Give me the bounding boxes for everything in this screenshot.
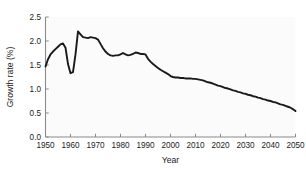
x-tick-label: 2020 (211, 141, 230, 150)
chart-figure: 0.00.51.01.52.02.5 195019601970198019902… (0, 0, 306, 173)
x-tick-label: 1990 (136, 141, 155, 150)
x-tick-label: 1970 (86, 141, 105, 150)
growth-rate-line-chart: 0.00.51.01.52.02.5 195019601970198019902… (0, 0, 306, 173)
x-tick-label: 2030 (236, 141, 255, 150)
y-tick-label: 2.5 (30, 13, 42, 22)
x-tick-label: 1980 (111, 141, 130, 150)
x-tick-label: 2010 (186, 141, 205, 150)
x-tick-label: 2040 (261, 141, 280, 150)
x-tick-label: 1950 (36, 141, 55, 150)
y-tick-label: 0.5 (30, 109, 42, 118)
y-tick-label: 1.0 (30, 85, 42, 94)
y-tick-label: 2.0 (30, 37, 42, 46)
x-tick-label: 2050 (286, 141, 305, 150)
y-axis-title: Growth rate (%) (5, 47, 15, 108)
x-tick-label: 2000 (161, 141, 180, 150)
y-tick-label: 1.5 (30, 61, 42, 70)
x-tick-label: 1960 (61, 141, 80, 150)
x-axis-title: Year (162, 155, 180, 165)
